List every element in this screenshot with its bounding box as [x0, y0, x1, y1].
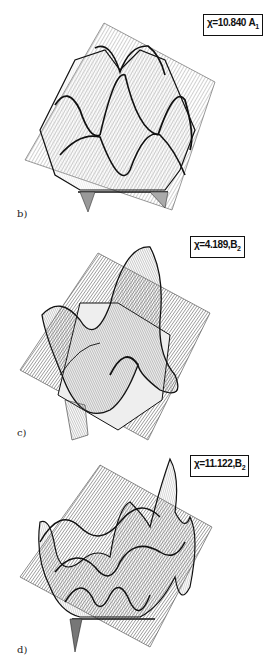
panel-d: χ=11.122,B2 d)	[0, 447, 267, 656]
symmetry-label: B	[235, 458, 242, 469]
panel-letter-c: c)	[17, 427, 27, 438]
panel-b: χ=10.840 A1 b)	[0, 0, 267, 225]
surface-plot-c	[0, 225, 267, 447]
symmetry-subscript: 2	[237, 245, 241, 252]
panel-letter-d: d)	[17, 644, 27, 655]
panel-letter-b: b)	[17, 208, 27, 219]
symmetry-label: B	[230, 239, 237, 250]
eigenvalue-label-d: χ=11.122,B2	[190, 455, 249, 477]
surface-plot-d	[0, 447, 267, 656]
eigenvalue: =11.122,	[199, 458, 234, 469]
eigenvalue: =4.189,	[199, 239, 230, 250]
symmetry-subscript: 2	[242, 464, 246, 471]
eigenvalue: =10.840	[212, 17, 246, 28]
eigenvalue-label-b: χ=10.840 A1	[203, 14, 263, 36]
eigenvalue-label-c: χ=4.189,B2	[190, 236, 245, 258]
panel-c: χ=4.189,B2 c)	[0, 225, 267, 447]
symmetry-subscript: 1	[255, 23, 259, 30]
